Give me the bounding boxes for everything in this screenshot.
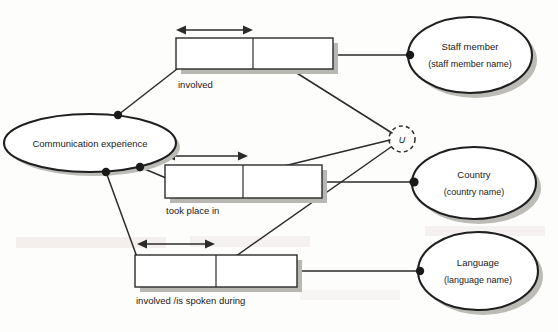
fact-label-involved-language: involved /is spoken during — [136, 295, 245, 306]
fact-label-involved-staff: involved — [178, 79, 213, 90]
entity-ellipse-country[interactable] — [412, 147, 536, 219]
entity-reference-staff-member: (staff member name) — [428, 59, 511, 69]
entity-label-communication-experience: Communication experience — [32, 138, 147, 149]
entity-label-language: Language — [457, 257, 499, 268]
orm-diagram: involved took place in involved — [0, 0, 558, 332]
role-dot-ce-top — [114, 111, 122, 119]
fact-box-involved-staff[interactable] — [176, 38, 333, 69]
constraint-letter-u: U — [399, 135, 406, 145]
entity-ellipse-language[interactable] — [418, 232, 538, 310]
role-dot-ce-bottom — [102, 168, 110, 176]
role-dot-ce-right — [136, 163, 144, 171]
role-dot-staff-member — [406, 51, 414, 59]
role-dot-country — [409, 177, 418, 186]
orm-canvas: involved took place in involved — [0, 0, 558, 332]
entity-ellipse-staff-member[interactable] — [408, 17, 532, 93]
entity-reference-language: (language name) — [444, 275, 512, 285]
entity-reference-country: (country name) — [444, 187, 505, 197]
entity-label-staff-member: Staff member — [442, 41, 499, 52]
entity-label-country: Country — [457, 169, 491, 180]
fact-label-took-place-in: took place in — [166, 205, 219, 216]
role-dot-language — [416, 267, 424, 275]
